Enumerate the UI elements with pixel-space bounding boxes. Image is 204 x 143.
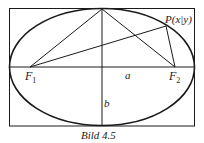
ellipse-diagram: P(x|y) F1 F2 a b Bild 4.5 bbox=[0, 0, 204, 143]
focus-2-label: F2 bbox=[168, 69, 180, 85]
figure-caption: Bild 4.5 bbox=[81, 129, 116, 141]
line-f1-to-vertex bbox=[30, 9, 102, 67]
semi-major-label: a bbox=[125, 69, 131, 81]
point-p-label: P(x|y) bbox=[164, 13, 192, 26]
semi-minor-label: b bbox=[104, 97, 110, 109]
line-f1-to-p bbox=[30, 26, 166, 67]
focus-1-label: F1 bbox=[24, 69, 36, 85]
